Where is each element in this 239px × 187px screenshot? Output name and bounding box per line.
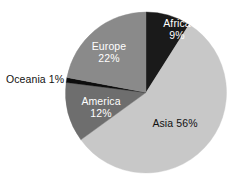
pie-chart: Africa 9% Europe 22% America 12% Asia 56… xyxy=(0,0,239,187)
pie-chart-canvas xyxy=(0,0,239,187)
pie-slice-group xyxy=(66,12,227,173)
